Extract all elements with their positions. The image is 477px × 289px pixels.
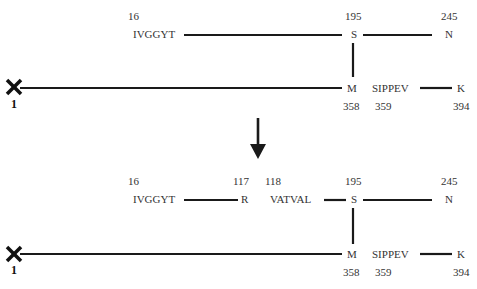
bottom-lower-next-sequence: SIPPEV: [372, 248, 409, 260]
down-arrow-icon: [250, 118, 266, 159]
bottom-upper-end-residue: N: [445, 193, 453, 205]
bottom-start-x-marker-icon: [7, 247, 21, 261]
bottom-lower-end-number: 394: [453, 266, 470, 278]
top-lower-next-sequence: SIPPEV: [372, 82, 409, 94]
top-lower-junction-residue: M: [347, 82, 357, 94]
top-lower-junction-number: 358: [343, 100, 360, 112]
bottom-upper-next-number: 118: [265, 175, 282, 187]
bottom-upper-end-number: 245: [441, 175, 458, 187]
bottom-upper-start-number: 16: [128, 175, 140, 187]
bottom-lower-start-number: 1: [11, 263, 17, 277]
bottom-upper-junction-number: 195: [345, 175, 362, 187]
top-upper-start-sequence: IVGGYT: [133, 28, 175, 40]
bottom-upper-cleave-residue: R: [241, 193, 249, 205]
bottom-lower-end-residue: K: [457, 248, 465, 260]
top-upper-end-residue: N: [445, 28, 453, 40]
bottom-upper-start-sequence: IVGGYT: [133, 193, 175, 205]
bottom-lower-next-number: 359: [375, 266, 392, 278]
bottom-upper-cleave-number: 117: [233, 175, 250, 187]
protein-cleavage-diagram: 16 IVGGYT 195 S 245 N 1 M 358 SIPPEV 359…: [0, 0, 477, 289]
top-lower-next-number: 359: [375, 100, 392, 112]
top-upper-start-number: 16: [128, 10, 140, 22]
bottom-upper-next-sequence: VATVAL: [270, 193, 311, 205]
bottom-lower-junction-residue: M: [347, 248, 357, 260]
top-lower-end-residue: K: [457, 82, 465, 94]
bottom-upper-junction-residue: S: [351, 193, 357, 205]
top-upper-junction-number: 195: [345, 10, 362, 22]
top-upper-junction-residue: S: [351, 28, 357, 40]
bottom-panel: 16 IVGGYT 117 R 118 VATVAL 195 S 245 N 1…: [7, 175, 470, 278]
top-lower-start-number: 1: [11, 97, 17, 111]
bottom-lower-junction-number: 358: [343, 266, 360, 278]
top-upper-end-number: 245: [441, 10, 458, 22]
top-panel: 16 IVGGYT 195 S 245 N 1 M 358 SIPPEV 359…: [7, 10, 470, 112]
top-lower-end-number: 394: [453, 100, 470, 112]
top-start-x-marker-icon: [7, 80, 21, 94]
